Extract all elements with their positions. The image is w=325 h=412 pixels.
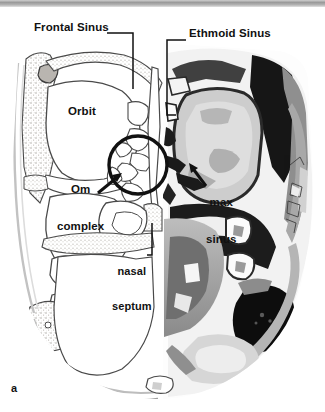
label-om-complex: Om complex bbox=[57, 159, 104, 257]
label-nasal-septum-line1: nasal bbox=[112, 266, 152, 278]
label-orbit: Orbit bbox=[68, 105, 96, 117]
label-max-sinus-line2: sinus bbox=[206, 233, 237, 245]
label-nasal-septum-line2: septum bbox=[112, 301, 152, 313]
photographic-half bbox=[162, 37, 322, 412]
label-ethmoid-sinus: Ethmoid Sinus bbox=[189, 27, 271, 39]
label-frontal-sinus: Frontal Sinus bbox=[34, 21, 109, 33]
label-nasal-septum: nasal septum bbox=[112, 243, 152, 336]
label-max-sinus: max sinus bbox=[206, 172, 237, 270]
scan-header-bar bbox=[0, 0, 325, 7]
label-om-complex-line1: Om bbox=[57, 183, 104, 195]
label-om-complex-line2: complex bbox=[57, 220, 104, 232]
label-max-sinus-line1: max bbox=[206, 196, 237, 208]
panel-letter: a bbox=[11, 382, 17, 394]
anatomy-figure: Frontal Sinus Ethmoid Sinus Orbit Om com… bbox=[0, 0, 325, 412]
coronal-section-illustration bbox=[0, 7, 325, 412]
figure-canvas bbox=[0, 7, 325, 412]
